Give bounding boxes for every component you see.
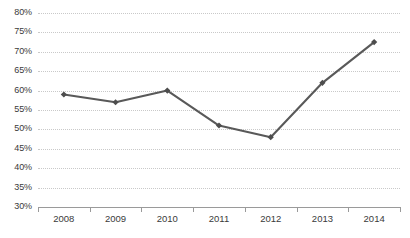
gridline bbox=[38, 32, 400, 33]
y-axis: 80%75%70%65%60%55%50%45%40%35%30% bbox=[0, 0, 34, 238]
x-axis-tick-mark bbox=[90, 207, 91, 212]
x-axis-tick-label: 2014 bbox=[364, 213, 385, 224]
gridline bbox=[38, 71, 400, 72]
y-axis-tick-label: 35% bbox=[0, 182, 32, 192]
x-axis-tick-label: 2009 bbox=[105, 213, 126, 224]
gridline bbox=[38, 188, 400, 189]
gridline bbox=[38, 110, 400, 111]
gridline bbox=[38, 13, 400, 14]
y-axis-tick-label: 60% bbox=[0, 85, 32, 95]
x-axis-tick-mark bbox=[400, 207, 401, 212]
line-chart: 80%75%70%65%60%55%50%45%40%35%30% 200820… bbox=[0, 0, 410, 238]
x-axis-tick-label: 2011 bbox=[209, 213, 229, 224]
x-axis-tick-mark bbox=[297, 207, 298, 212]
x-axis-line bbox=[38, 207, 400, 208]
y-axis-tick-label: 75% bbox=[0, 26, 32, 36]
x-axis-tick-label: 2012 bbox=[260, 213, 281, 224]
x-axis-tick-mark bbox=[245, 207, 246, 212]
y-axis-tick-label: 65% bbox=[0, 65, 32, 75]
y-axis-tick-label: 45% bbox=[0, 143, 32, 153]
x-axis-tick-label: 2008 bbox=[53, 213, 74, 224]
x-axis-tick-mark bbox=[348, 207, 349, 212]
x-axis-tick-mark bbox=[141, 207, 142, 212]
x-axis-tick-label: 2013 bbox=[312, 213, 333, 224]
y-axis-tick-label: 80% bbox=[0, 7, 32, 17]
x-axis-tick-label: 2010 bbox=[157, 213, 178, 224]
gridline bbox=[38, 168, 400, 169]
gridline bbox=[38, 149, 400, 150]
plot-area bbox=[38, 13, 400, 207]
y-axis-tick-label: 55% bbox=[0, 104, 32, 114]
y-axis-tick-label: 50% bbox=[0, 123, 32, 133]
gridline bbox=[38, 52, 400, 53]
x-axis-tick-mark bbox=[38, 207, 39, 212]
gridline bbox=[38, 91, 400, 92]
x-axis: 2008200920102011201220132014 bbox=[38, 213, 400, 233]
y-axis-tick-label: 30% bbox=[0, 201, 32, 211]
gridline bbox=[38, 129, 400, 130]
y-axis-tick-label: 40% bbox=[0, 162, 32, 172]
y-axis-tick-label: 70% bbox=[0, 46, 32, 56]
x-axis-tick-mark bbox=[193, 207, 194, 212]
